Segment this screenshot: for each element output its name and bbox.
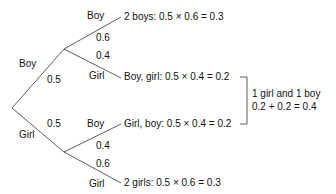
level1-girl-probability: 0.5 <box>47 118 61 130</box>
level2-girl-boy-label: Boy <box>87 118 104 130</box>
level1-girl-label: Girl <box>19 129 35 141</box>
level2-boy-girl-label: Girl <box>89 70 105 82</box>
outcome-boy-girl: Boy, girl: 0.5 × 0.4 = 0.2 <box>124 71 229 83</box>
level2-boy-boy-probability: 0.6 <box>96 32 110 44</box>
level2-girl-girl-label: Girl <box>89 178 105 190</box>
level2-girl-boy-probability: 0.4 <box>96 140 110 152</box>
level1-boy-probability: 0.5 <box>47 74 61 86</box>
bracket-note-line2: 0.2 + 0.2 = 0.4 <box>252 101 317 113</box>
level2-boy-girl-probability: 0.4 <box>96 50 110 62</box>
level1-boy-label: Boy <box>19 58 36 70</box>
outcome-two-girls: 2 girls: 0.5 × 0.6 = 0.3 <box>124 177 221 189</box>
level2-boy-boy-label: Boy <box>87 10 104 22</box>
combine-bracket <box>240 77 247 124</box>
outcome-two-boys: 2 boys: 0.5 × 0.6 = 0.3 <box>124 11 224 23</box>
bracket-note-line1: 1 girl and 1 boy <box>252 88 320 100</box>
probability-tree-diagram: Boy 0.5 0.5 Girl Boy 0.6 0.4 Girl Boy 0.… <box>0 0 336 194</box>
level2-girl-girl-probability: 0.6 <box>96 158 110 170</box>
outcome-girl-boy: Girl, boy: 0.5 × 0.4 = 0.2 <box>124 118 231 130</box>
